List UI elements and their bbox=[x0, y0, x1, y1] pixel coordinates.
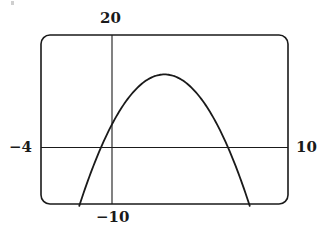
x-min-label: −4 bbox=[9, 140, 32, 155]
viewing-window-frame bbox=[41, 35, 288, 204]
parabola-curve bbox=[79, 74, 249, 205]
y-min-label: −10 bbox=[96, 210, 129, 225]
graph-window bbox=[0, 0, 318, 229]
x-max-label: 10 bbox=[296, 140, 317, 155]
y-max-label: 20 bbox=[100, 11, 121, 26]
axes bbox=[41, 35, 288, 204]
